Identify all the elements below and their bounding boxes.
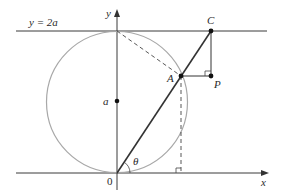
x-axis-label: x [260,176,266,188]
y-axis-label: y [105,7,111,19]
witch-of-agnesi-diagram: y = 2a x y 0 a θ A C P [0,0,283,190]
y-axis-arrow-icon [114,9,120,17]
right-angle-marker-x-axis [176,168,181,173]
angle-theta-label: θ [133,155,139,167]
point-A [179,74,184,79]
center-label: a [103,95,109,107]
line-O-to-C [117,31,211,173]
center-point [115,99,120,104]
origin-label: 0 [107,175,113,187]
point-C [209,29,214,34]
point-P [209,74,214,79]
point-P-label: P [213,78,221,90]
dashed-line-top-to-A [117,31,181,76]
point-C-label: C [207,14,215,26]
point-A-label: A [166,72,174,84]
line-y-2a-label: y = 2a [28,16,58,28]
